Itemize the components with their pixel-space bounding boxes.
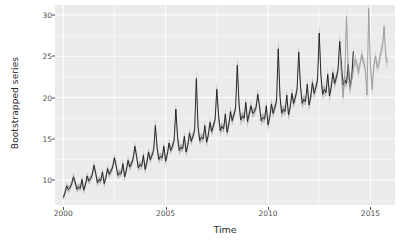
x-tick-mark [370,207,371,210]
x-tick-label: 2015 [350,209,390,218]
series-lines [63,8,387,197]
y-axis-title: Bootstrapped series [0,0,30,205]
plot-panel [55,5,395,205]
y-tick-mark [52,56,55,57]
chart-figure: Bootstrapped series 1015202530 200020052… [0,0,413,246]
x-tick-mark [63,207,64,210]
y-tick-label: 15 [28,134,52,143]
y-tick-label: 25 [28,52,52,61]
y-tick-label: 20 [28,93,52,102]
x-tick-mark [268,207,269,210]
plot-svg [55,5,395,205]
y-tick-mark [52,97,55,98]
x-tick-label: 2005 [146,209,186,218]
confidence-ribbons [63,5,387,201]
y-tick-mark [52,180,55,181]
x-tick-mark [166,207,167,210]
x-tick-label: 2010 [248,209,288,218]
y-axis-title-text: Bootstrapped series [10,56,20,148]
y-axis-tick-labels: 1015202530 [28,0,52,205]
x-axis-title: Time [55,224,395,235]
y-tick-label: 30 [28,10,52,19]
y-tick-label: 10 [28,176,52,185]
y-tick-mark [52,14,55,15]
x-tick-label: 2000 [43,209,83,218]
y-tick-mark [52,138,55,139]
x-axis-tick-labels: 2000200520102015 [0,207,413,221]
